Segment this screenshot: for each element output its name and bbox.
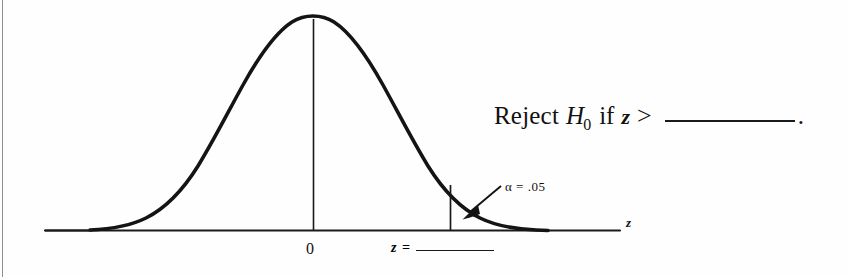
normal-curve-figure [0, 0, 848, 277]
axis-label-z: z [626, 216, 631, 229]
alpha-arrow [462, 186, 501, 220]
test-statistic-symbol: z [614, 104, 630, 130]
comparison-operator: > [630, 101, 652, 131]
critical-value-group: z = [391, 240, 494, 256]
sentence-period: . [795, 102, 804, 130]
answer-blank[interactable] [665, 120, 795, 122]
center-tick-label-zero: 0 [306, 241, 314, 257]
reject-word: Reject [494, 102, 559, 130]
critical-value-prefix: z = [391, 240, 411, 256]
normal-curve [90, 16, 548, 231]
critical-value-blank[interactable] [416, 250, 494, 251]
if-word: if [592, 102, 614, 130]
alpha-annotation-label: α = .05 [505, 180, 545, 193]
hypothesis-subscript: 0 [583, 116, 591, 134]
hypothesis-symbol: H [559, 102, 584, 130]
reject-rule-statement: Reject H 0 if z > . [494, 101, 804, 131]
figure-page: z 0 α = .05 z = Reject H 0 if z > . [0, 0, 848, 277]
